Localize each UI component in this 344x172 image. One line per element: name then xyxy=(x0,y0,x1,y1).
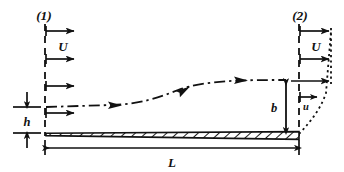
L-label: L xyxy=(167,155,176,170)
station-2-label: (2) xyxy=(292,8,308,23)
outlet-velocity-label: U xyxy=(311,39,321,54)
b-label: b xyxy=(271,101,277,115)
diagram-canvas: h b L (1) (2) U U u xyxy=(0,0,344,172)
station-1-label: (1) xyxy=(36,8,52,23)
inlet-velocity-label: U xyxy=(58,39,68,54)
h-label: h xyxy=(24,115,31,129)
profile-velocity-label: u xyxy=(303,101,309,112)
boundary-layer-diagram: h b L (1) (2) U U u xyxy=(0,0,344,172)
